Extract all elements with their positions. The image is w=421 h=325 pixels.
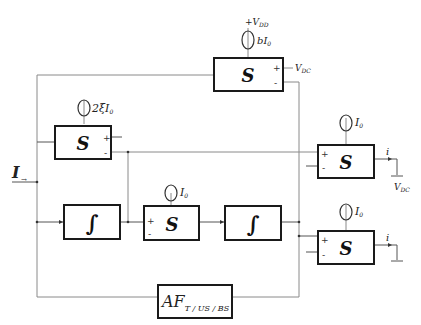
vdc-label: VDC	[394, 182, 410, 193]
pin-plus: +	[147, 216, 155, 226]
source-label: I0	[354, 116, 363, 129]
block-s-top: S + - bI0 +VDD VDC	[214, 17, 311, 91]
block-integrator-2: ∫	[225, 206, 281, 240]
block-s-out1: S + - I0 i VDC	[318, 115, 410, 193]
block-label: S	[242, 65, 255, 86]
pin-plus: +	[103, 133, 111, 143]
circuit-diagram: S + - bI0 +VDD VDC S + - 2ξI0 ∫ S + - I0…	[0, 0, 421, 325]
supply-label: +VDD	[245, 17, 269, 28]
source-label: I0	[179, 186, 188, 199]
svg-text:→: →	[21, 176, 27, 184]
block-s-out2: S + - I0 i	[318, 204, 389, 264]
pin-minus: -	[274, 78, 277, 88]
pin-minus: -	[322, 163, 325, 173]
block-label: S	[340, 238, 353, 259]
source-label: 2ξI0	[91, 102, 113, 115]
source-label: bI0	[257, 35, 271, 47]
vdc-label: VDC	[295, 63, 311, 74]
output-current-label: i	[386, 232, 389, 243]
block-label: S	[77, 133, 90, 154]
pin-plus: +	[321, 149, 329, 159]
block-label: S	[166, 214, 179, 235]
pin-plus: +	[273, 63, 281, 73]
input-label: I →	[11, 163, 27, 184]
block-label: S	[340, 152, 353, 173]
output-current-label: i	[386, 146, 389, 157]
integral-symbol: ∫	[247, 211, 260, 237]
pin-minus: -	[322, 250, 325, 260]
block-af: AFT / US / BS	[158, 285, 232, 318]
pin-plus: +	[321, 235, 329, 245]
source-label: I0	[354, 205, 363, 218]
pin-minus: -	[148, 229, 151, 239]
svg-text:I: I	[11, 163, 20, 182]
block-integrator-1: ∫	[64, 205, 120, 239]
integral-symbol: ∫	[86, 210, 99, 236]
pin-minus: -	[104, 148, 107, 158]
